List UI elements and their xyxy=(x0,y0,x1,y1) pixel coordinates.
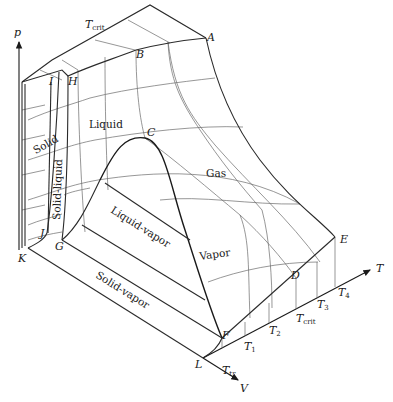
t3-label: T3 xyxy=(317,298,329,312)
t-axis-label: T xyxy=(376,262,385,275)
point-e-label: E xyxy=(339,233,348,246)
point-h-label: H xyxy=(67,75,78,88)
svg-text:Ttr: Ttr xyxy=(222,364,236,378)
t-crit-top-label: Tcrit xyxy=(85,18,105,32)
point-c-label: C xyxy=(147,126,156,139)
v-axis-label: V xyxy=(240,382,249,395)
region-liquid-vapor-label: Liquid-vapor xyxy=(109,204,174,251)
pvt-surface-diagram: p T V A B C D E F G H I J K L Solid Soli… xyxy=(0,0,393,402)
region-solid-label: Solid xyxy=(31,132,61,156)
t1-label: T1 xyxy=(244,340,256,354)
t-crit-label: Tcrit xyxy=(296,312,316,326)
point-g-label: G xyxy=(55,240,64,253)
region-liquid-label: Liquid xyxy=(89,118,123,130)
point-f-label: F xyxy=(221,329,230,342)
region-vapor-label: Vapor xyxy=(198,246,232,262)
svg-text:T1: T1 xyxy=(244,340,256,354)
p-axis-label: p xyxy=(14,26,21,39)
t4-label: T4 xyxy=(338,286,350,300)
point-a-label: A xyxy=(206,31,215,44)
surface-edges xyxy=(22,5,335,358)
point-j-label: J xyxy=(38,227,45,240)
point-d-label: D xyxy=(290,269,300,282)
region-gas-label: Gas xyxy=(206,167,226,179)
svg-text:T2: T2 xyxy=(269,324,281,338)
point-i-label: I xyxy=(48,75,54,88)
svg-text:T3: T3 xyxy=(317,298,329,312)
svg-text:Tcrit: Tcrit xyxy=(296,312,316,326)
t2-label: T2 xyxy=(269,324,281,338)
t-axis xyxy=(203,270,370,358)
point-l-label: L xyxy=(194,358,202,371)
region-solid-liquid-label: Solid-liquid xyxy=(50,159,64,220)
t-tr-label: Ttr xyxy=(222,364,236,378)
point-k-label: K xyxy=(17,252,27,265)
svg-text:T4: T4 xyxy=(338,286,350,300)
surface-grid xyxy=(22,20,335,348)
svg-text:Tcrit: Tcrit xyxy=(85,18,105,32)
point-b-label: B xyxy=(135,48,144,61)
